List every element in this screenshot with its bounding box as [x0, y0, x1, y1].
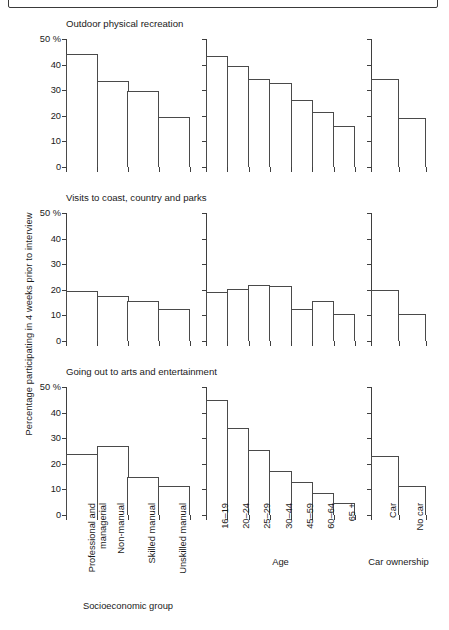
panel-title: Visits to coast, country and parks: [66, 192, 207, 203]
category-label-line: managerial: [97, 503, 108, 572]
bar: [158, 309, 190, 341]
chart-row-1: Outdoor physical recreation01020304050 %: [0, 18, 449, 193]
bar: [291, 100, 313, 167]
category-label-line: Unskilled manual: [178, 503, 189, 574]
x-tick: [426, 341, 427, 346]
x-tick: [97, 341, 98, 346]
category-label: 16–19: [220, 503, 231, 529]
bar: [312, 112, 334, 167]
bar: [206, 56, 228, 167]
category-label: Unskilled manual: [178, 503, 189, 574]
category-label: Skilled manual: [147, 503, 158, 563]
x-tick: [291, 341, 292, 346]
category-label-line: 65 +: [347, 503, 358, 521]
plot-panel-socio: 01020304050 %: [66, 387, 190, 515]
category-label: Non-manual: [116, 503, 127, 554]
category-label-line: 16–19: [220, 503, 231, 529]
y-tick-label: 10: [51, 136, 61, 146]
plot-panel-socio: 01020304050 %: [66, 213, 190, 341]
y-tick-label: 20: [51, 285, 61, 295]
category-label: 20–24: [241, 503, 252, 529]
bar: [97, 81, 129, 167]
plot-panel-car: [371, 39, 426, 167]
x-tick: [399, 167, 400, 172]
bar: [127, 91, 159, 167]
category-label-line: Car: [388, 503, 399, 518]
chart-figure: Outdoor physical recreation01020304050 %…: [0, 0, 449, 630]
bar: [333, 126, 355, 167]
category-label-line: 60–64: [326, 503, 337, 529]
panel-title: Going out to arts and entertainment: [66, 366, 217, 377]
y-tick-label: 50 %: [40, 34, 61, 44]
category-label-line: Skilled manual: [147, 503, 158, 563]
y-tick-label: 50 %: [40, 208, 61, 218]
bar: [127, 301, 159, 341]
y-tick-label: 40: [51, 60, 61, 70]
axis-group-caption-socioeconomic-group: Socioeconomic group: [66, 600, 190, 611]
bar-series: [206, 213, 355, 341]
bar: [248, 285, 270, 341]
plot-panel-car: [371, 213, 426, 341]
category-label-line: Professional and: [87, 503, 98, 572]
bar-series: [371, 213, 426, 341]
x-tick: [159, 167, 160, 172]
x-tick: [312, 167, 313, 172]
category-label: No car: [415, 503, 426, 530]
y-tick-label: 10: [51, 310, 61, 320]
bar-series: [206, 387, 355, 515]
x-tick: [159, 341, 160, 346]
bar: [371, 79, 399, 167]
category-labels-socio: Professional andmanagerialNon-manualSkil…: [66, 503, 190, 593]
bar: [97, 296, 129, 341]
x-tick-group: [66, 341, 190, 346]
bar: [269, 83, 291, 167]
x-tick: [128, 167, 129, 172]
bar: [371, 290, 399, 341]
x-tick: [227, 341, 228, 346]
category-label: 60–64: [326, 503, 337, 529]
category-label: Car: [388, 503, 399, 518]
bar-series: [206, 39, 355, 167]
bar-series: [66, 387, 190, 515]
x-tick: [249, 167, 250, 172]
bar: [398, 314, 426, 341]
y-tick-label: 30: [51, 259, 61, 269]
y-tick-label: 0: [56, 336, 61, 346]
x-tick-group: [66, 167, 190, 172]
x-tick: [355, 341, 356, 346]
bar: [312, 301, 334, 341]
x-tick: [66, 341, 67, 346]
x-tick: [291, 167, 292, 172]
x-tick: [371, 167, 372, 172]
x-tick: [334, 167, 335, 172]
axis-group-caption-car-ownership-group: Car ownership: [356, 556, 441, 567]
bar-series: [66, 39, 190, 167]
y-tick-label: 30: [51, 433, 61, 443]
bar: [248, 79, 270, 167]
plot-panel-age: [206, 213, 355, 341]
x-tick: [190, 167, 191, 172]
plot-panel-socio: 01020304050 %: [66, 39, 190, 167]
panel-title: Outdoor physical recreation: [66, 18, 183, 29]
bar: [206, 400, 228, 515]
category-label: 30–44: [284, 503, 295, 529]
x-tick: [355, 167, 356, 172]
x-tick: [312, 341, 313, 346]
x-tick: [270, 341, 271, 346]
x-tick: [227, 167, 228, 172]
x-tick-group: [371, 341, 426, 346]
bar: [269, 286, 291, 341]
bar: [66, 291, 98, 341]
category-label: 25–29: [262, 503, 273, 529]
bar: [398, 118, 426, 167]
plot-panel-age: [206, 387, 355, 515]
category-label-line: 20–24: [241, 503, 252, 529]
y-tick-label: 40: [51, 408, 61, 418]
axis-group-caption-age-group: Age: [206, 556, 355, 567]
y-tick-label: 40: [51, 234, 61, 244]
x-tick: [66, 167, 67, 172]
x-tick-group: [206, 167, 355, 172]
category-label-line: Non-manual: [116, 503, 127, 554]
bar-series: [66, 213, 190, 341]
y-tick-label: 0: [56, 510, 61, 520]
